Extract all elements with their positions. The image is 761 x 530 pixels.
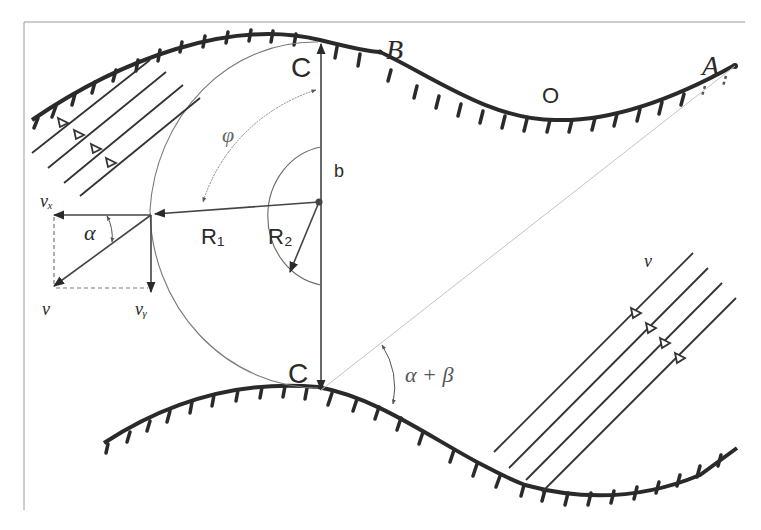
label-c-bottom: C bbox=[288, 360, 308, 388]
diagram-canvas: C B A O φ b R₁ R₂ α vₓ v vᵧ C α + β v bbox=[0, 0, 761, 530]
streamlines-upper-left bbox=[32, 60, 200, 196]
radius-r2 bbox=[290, 202, 319, 272]
label-v-right: v bbox=[644, 252, 652, 270]
upper-wall bbox=[32, 30, 738, 132]
label-o: O bbox=[542, 85, 559, 107]
angle-alpha-beta-arc bbox=[382, 345, 395, 404]
streamlines-lower-right bbox=[494, 253, 736, 492]
line-c-to-a bbox=[321, 66, 735, 390]
label-alpha-plus-beta: α + β bbox=[405, 364, 453, 386]
arc-r1 bbox=[150, 42, 318, 388]
label-r2: R₂ bbox=[268, 226, 292, 248]
label-c-top: C bbox=[291, 54, 311, 82]
label-v: v bbox=[42, 300, 50, 318]
radius-r1 bbox=[155, 202, 319, 214]
lower-wall bbox=[104, 386, 737, 505]
velocity-decomposition bbox=[54, 215, 151, 292]
label-vy: vᵧ bbox=[135, 300, 147, 318]
point-b-dot bbox=[378, 50, 383, 55]
angle-phi-arc bbox=[203, 90, 316, 202]
label-a: A bbox=[702, 52, 719, 80]
label-vx: vₓ bbox=[40, 192, 53, 210]
label-phi: φ bbox=[222, 124, 234, 146]
label-r1: R₁ bbox=[201, 226, 224, 248]
label-b-lower: b bbox=[334, 162, 344, 180]
label-alpha: α bbox=[84, 222, 96, 244]
frame bbox=[24, 22, 745, 510]
label-b: B bbox=[386, 36, 403, 64]
